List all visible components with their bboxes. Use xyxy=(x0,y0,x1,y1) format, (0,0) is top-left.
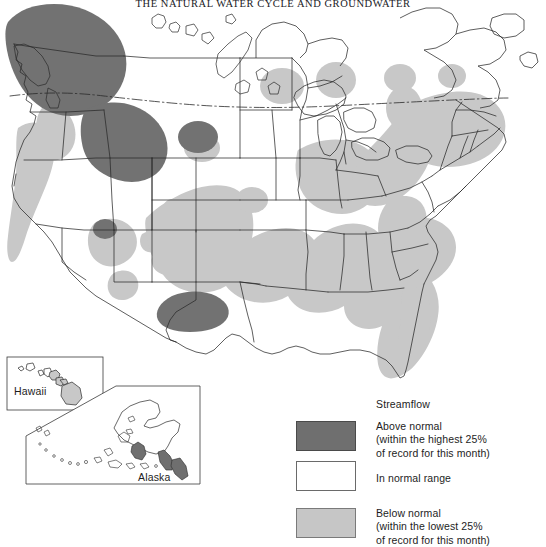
legend-label-above-normal: Above normal (within the highest 25% of … xyxy=(376,420,490,460)
legend: Streamflow Above normal (within the high… xyxy=(282,398,546,547)
conus-map xyxy=(5,4,538,378)
page-root: THE NATURAL WATER CYCLE AND GROUNDWATER xyxy=(0,0,546,547)
legend-label-in-normal-range: In normal range xyxy=(376,472,451,485)
legend-swatch-above-normal xyxy=(296,421,356,451)
hawaii-inset-label: Hawaii xyxy=(14,385,46,397)
legend-swatch-in-normal-range xyxy=(296,461,356,491)
alaska-inset-label: Alaska xyxy=(138,471,170,483)
legend-title: Streamflow xyxy=(376,398,430,410)
legend-swatch-below-normal xyxy=(296,508,356,538)
legend-label-below-normal: Below normal (within the lowest 25% of r… xyxy=(376,507,490,547)
